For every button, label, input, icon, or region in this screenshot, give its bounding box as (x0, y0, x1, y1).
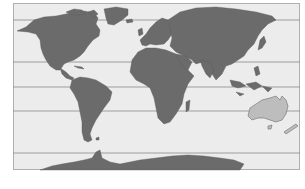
falkland-islands (96, 137, 99, 140)
world-map (0, 0, 305, 189)
caribbean-islands (74, 66, 84, 69)
madagascar (186, 100, 190, 112)
southeast-asia-islands (230, 80, 272, 96)
europe (140, 18, 172, 46)
australia-highlighted (248, 96, 288, 122)
central-america (60, 68, 74, 80)
tasmania (268, 125, 272, 129)
japan (258, 36, 266, 50)
south-america (70, 77, 112, 142)
greenland (104, 7, 128, 25)
british-isles (138, 28, 143, 36)
new-zealand (284, 124, 298, 134)
philippines (254, 66, 260, 76)
